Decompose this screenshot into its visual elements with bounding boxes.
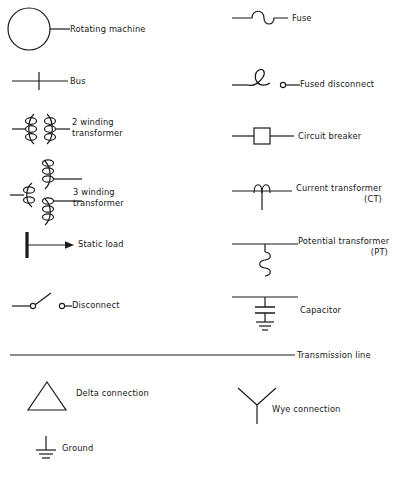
two-winding-transformer-icon — [12, 108, 70, 150]
potential-transformer-label-line1: Potential transformer — [298, 236, 389, 247]
disconnect-label: Disconnect — [72, 300, 120, 311]
transmission-line-icon — [10, 350, 295, 360]
fused-disconnect-icon — [232, 66, 300, 92]
static-load-icon — [24, 232, 74, 258]
potential-transformer-label-line2: (PT) — [298, 247, 388, 258]
fuse-icon — [232, 10, 288, 30]
ground-icon — [32, 436, 60, 462]
fused-disconnect-label: Fused disconnect — [300, 79, 374, 90]
circuit-breaker-icon — [232, 124, 294, 148]
current-transformer-label-line1: Current transformer — [296, 183, 382, 194]
static-load-label: Static load — [78, 239, 124, 250]
bus-icon — [12, 70, 68, 92]
potential-transformer-icon — [232, 236, 298, 280]
delta-connection-icon — [26, 380, 68, 412]
delta-connection-label: Delta connection — [76, 388, 149, 399]
current-transformer-icon — [232, 178, 292, 212]
capacitor-icon — [232, 294, 298, 334]
three-winding-transformer-label-line1: 3 winding — [73, 187, 115, 198]
two-winding-transformer-label-line1: 2 winding — [72, 117, 114, 128]
rotating-machine-icon — [6, 6, 70, 52]
capacitor-label: Capacitor — [300, 305, 341, 316]
two-winding-transformer-label-line2: transformer — [72, 128, 123, 139]
bus-label: Bus — [70, 76, 86, 87]
three-winding-transformer-label-line2: transformer — [73, 198, 124, 209]
symbol-legend-figure: Rotating machine Bus 2 winding transform… — [0, 0, 394, 477]
current-transformer-label-line2: (CT) — [296, 194, 382, 205]
ground-label: Ground — [62, 443, 93, 454]
disconnect-icon — [12, 290, 72, 312]
circuit-breaker-label: Circuit breaker — [298, 131, 361, 142]
rotating-machine-label: Rotating machine — [70, 24, 146, 35]
fuse-label: Fuse — [292, 13, 312, 24]
transmission-line-label: Transmission line — [297, 350, 371, 361]
wye-connection-label: Wye connection — [272, 404, 341, 415]
